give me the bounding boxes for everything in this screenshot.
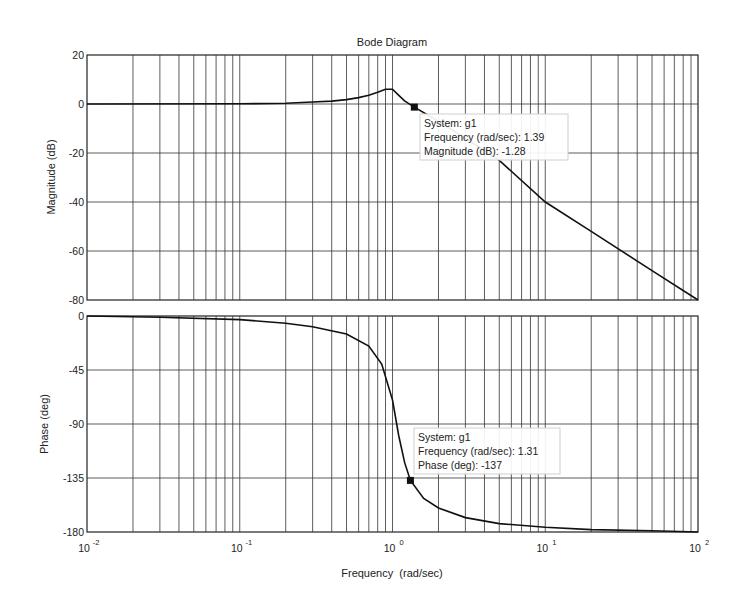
magnitude-y-ticks: 200-20-40-60-80 (69, 49, 84, 306)
y-tick-label: -180 (63, 526, 84, 538)
y-tick-label: -45 (69, 364, 84, 376)
y-tick-label: 0 (78, 98, 84, 110)
phase-datatip-system: System: g1 (418, 431, 471, 443)
y-tick-label: -20 (69, 147, 84, 159)
magnitude-datatip-marker[interactable] (411, 104, 418, 111)
magnitude-datatip-frequency: Frequency (rad/sec): 1.39 (424, 131, 544, 143)
y-tick-label: 0 (78, 310, 84, 322)
y-tick-label: -90 (69, 418, 84, 430)
phase-y-ticks: 0-45-90-135-180 (63, 310, 84, 538)
y-tick-label: 20 (72, 49, 84, 61)
magnitude-y-label: Magnitude (dB) (45, 139, 57, 214)
y-tick-label: -60 (69, 245, 84, 257)
phase-datatip[interactable]: System: g1 Frequency (rad/sec): 1.31 Pha… (414, 428, 560, 474)
x-axis-label: Frequency (rad/sec) (341, 567, 442, 579)
magnitude-datatip-system: System: g1 (424, 117, 477, 129)
y-tick-label: -80 (69, 294, 84, 306)
x-tick-label: 10 (231, 542, 243, 554)
x-tick-exponent: -2 (93, 538, 100, 547)
phase-datatip-value: Phase (deg): -137 (418, 459, 502, 471)
y-tick-label: -40 (69, 196, 84, 208)
magnitude-datatip-value: Magnitude (dB): -1.28 (424, 145, 526, 157)
phase-datatip-frequency: Frequency (rad/sec): 1.31 (418, 445, 538, 457)
x-tick-exponent: -1 (245, 538, 252, 547)
x-tick-label: 10 (536, 542, 548, 554)
chart-title: Bode Diagram (357, 36, 427, 48)
x-tick-label: 10 (384, 542, 396, 554)
y-tick-label: -135 (63, 472, 84, 484)
phase-datatip-marker[interactable] (407, 477, 414, 484)
phase-axes: 0-45-90-135-180 Phase (deg) System: g1 F… (38, 310, 698, 538)
x-tick-label: 10 (689, 542, 701, 554)
magnitude-axes: 200-20-40-60-80 Magnitude (dB) System: g… (45, 49, 698, 306)
phase-y-label: Phase (deg) (38, 394, 50, 454)
magnitude-datatip[interactable]: System: g1 Frequency (rad/sec): 1.39 Mag… (420, 114, 568, 160)
x-tick-exponent: 2 (705, 538, 709, 547)
x-axis-ticks: 10-210-1100101102 (78, 538, 709, 554)
x-tick-label: 10 (78, 542, 90, 554)
bode-figure: Bode Diagram 200-20-40-60-80 Magnitude (… (0, 0, 746, 611)
x-tick-exponent: 0 (399, 538, 403, 547)
x-tick-exponent: 1 (552, 538, 556, 547)
